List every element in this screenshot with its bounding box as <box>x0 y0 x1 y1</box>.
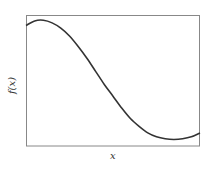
y-axis-label: f(x) <box>6 77 17 94</box>
chart-canvas <box>0 0 208 170</box>
x-axis-label: x <box>110 150 116 161</box>
function-curve <box>26 20 200 139</box>
plot-frame <box>27 16 200 147</box>
